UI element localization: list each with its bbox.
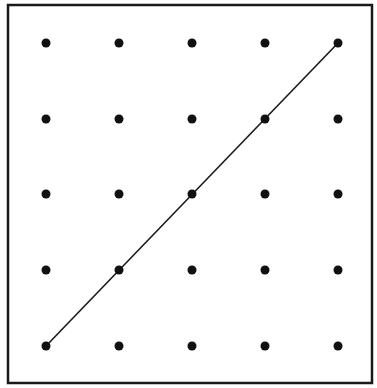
grid-dot [188, 39, 197, 48]
grid-dot [115, 342, 124, 351]
grid-dot [42, 39, 51, 48]
grid-dot [334, 190, 343, 199]
grid-dot [115, 39, 124, 48]
grid-dot [115, 115, 124, 124]
grid-dot [334, 266, 343, 275]
grid-dot [188, 342, 197, 351]
grid-dot [188, 115, 197, 124]
grid-dot [334, 39, 343, 48]
dot-grid-diagram [0, 0, 377, 388]
grid-dot [334, 342, 343, 351]
grid-dot [261, 266, 270, 275]
grid-dot [261, 39, 270, 48]
grid-dot [42, 266, 51, 275]
grid-dot [42, 190, 51, 199]
grid-dot [42, 115, 51, 124]
grid-dot [42, 342, 51, 351]
grid-dot [188, 190, 197, 199]
grid-dot [115, 266, 124, 275]
grid-dot [188, 266, 197, 275]
grid-dot [261, 342, 270, 351]
grid-dot [334, 115, 343, 124]
grid-dot [261, 190, 270, 199]
grid-dot [115, 190, 124, 199]
grid-dot [261, 115, 270, 124]
